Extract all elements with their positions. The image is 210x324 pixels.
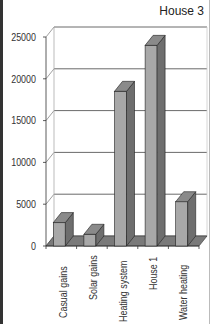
gridline-side [46,69,54,79]
gridline-side [46,152,54,162]
x-label-heating-system: Heating system [117,260,129,322]
x-label-water-heating: Water heating [177,265,189,320]
bar-front-2 [115,91,127,246]
bar-side-3 [157,35,165,246]
gridline-side [46,194,54,204]
x-label-casual-gains: Casual gains [57,266,69,318]
x-label-solar-gains: Solar gains [87,255,99,300]
gridline-side [46,27,54,37]
bar-front-3 [145,45,157,246]
x-label-house-1: House 1 [147,257,159,290]
bar-front-1 [84,234,96,246]
bar-front-0 [53,223,65,246]
bar-side-2 [127,81,135,246]
bar-front-4 [176,202,188,246]
gridline-side [46,111,54,121]
